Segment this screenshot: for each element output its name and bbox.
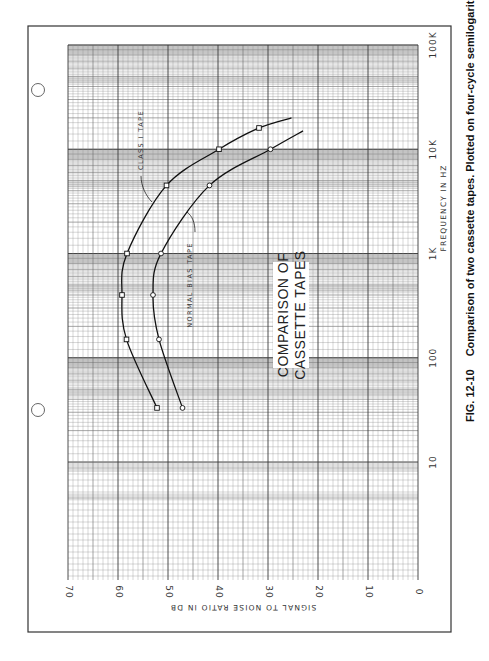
plot-area — [68, 45, 418, 580]
x-axis-ticks: 101001K10K100K — [428, 31, 438, 468]
data-point-class-i-tape — [120, 293, 125, 298]
series-label-class-i-tape: CLASS I TAPE — [137, 110, 145, 170]
x-tick-label: 100 — [428, 348, 438, 368]
chart-title-line-1: COMPARISON OF — [275, 253, 291, 377]
x-tick-label: 1K — [428, 247, 438, 261]
x-tick-label: 10K — [428, 139, 438, 159]
y-tick-label: 40 — [214, 585, 224, 598]
y-tick-label: 60 — [114, 585, 124, 598]
y-tick-label: 10 — [364, 585, 374, 598]
y-tick-label: 50 — [164, 585, 174, 598]
page-frame — [28, 26, 451, 632]
chart-title-line-2: CASSETTE TAPES — [292, 250, 308, 379]
figure-caption-text: Comparison of two cassette tapes. Plotte… — [464, 0, 476, 356]
figure: 010203040506070 101001K10K100K SIGNAL TO… — [0, 0, 489, 661]
data-point-normal-bias-tape — [180, 406, 185, 411]
y-tick-label: 0 — [414, 589, 424, 596]
binder-hole-bottom — [32, 404, 45, 417]
data-point-class-i-tape — [217, 147, 222, 152]
y-tick-label: 20 — [314, 585, 324, 598]
data-point-normal-bias-tape — [159, 251, 164, 256]
x-axis-title: FREQUENCY IN HZ — [439, 164, 448, 251]
data-point-class-i-tape — [155, 406, 160, 411]
y-axis-title: SIGNAL TO NOISE RATIO IN DB — [170, 603, 317, 612]
y-tick-label: 70 — [64, 585, 74, 598]
data-point-normal-bias-tape — [151, 293, 156, 298]
binder-hole-top — [32, 84, 45, 97]
data-point-normal-bias-tape — [268, 147, 273, 152]
y-tick-label: 30 — [264, 585, 274, 598]
data-point-class-i-tape — [164, 183, 169, 188]
data-point-class-i-tape — [125, 251, 130, 256]
series-label-normal-bias-tape: NORMAL BIAS TAPE — [186, 242, 194, 328]
x-tick-label: 10 — [428, 455, 438, 468]
data-point-class-i-tape — [124, 337, 129, 342]
chart-title: COMPARISON OF CASSETTE TAPES — [273, 250, 309, 379]
x-tick-label: 100K — [428, 31, 438, 58]
data-point-class-i-tape — [257, 126, 262, 131]
data-point-normal-bias-tape — [157, 337, 162, 342]
figure-caption: FIG. 12-10 Comparison of two cassette ta… — [464, 0, 476, 422]
y-axis-ticks: 010203040506070 — [64, 585, 424, 598]
figure-number: FIG. 12-10 — [464, 369, 476, 422]
data-point-normal-bias-tape — [207, 183, 212, 188]
